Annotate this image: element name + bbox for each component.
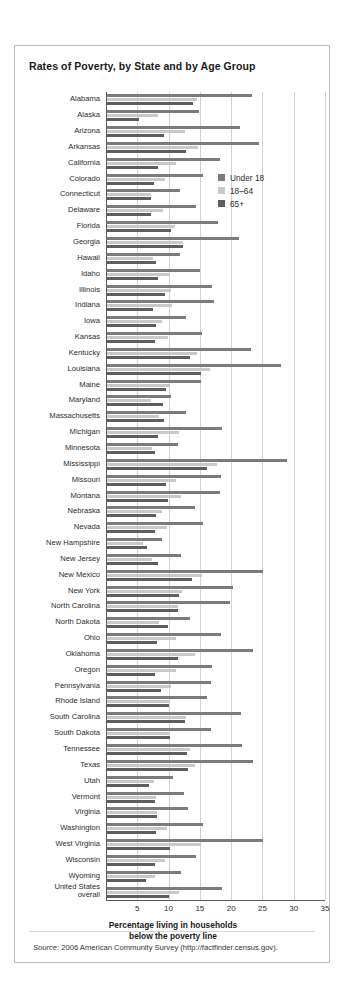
category-label: Nebraska — [14, 507, 100, 515]
bar — [107, 815, 157, 818]
bar-group — [107, 475, 325, 486]
category-label: Wyoming — [14, 872, 100, 880]
legend-label: Under 18 — [230, 173, 264, 183]
bar-group — [107, 665, 325, 676]
bar — [107, 649, 253, 652]
bar — [107, 574, 202, 577]
x-tick-label-25: 25 — [258, 904, 267, 913]
category-label: Hawaii — [14, 254, 100, 262]
bar — [107, 792, 184, 795]
bar — [107, 289, 171, 292]
bar — [107, 704, 169, 707]
bar-group — [107, 839, 325, 850]
bar — [107, 843, 201, 846]
bar — [107, 839, 263, 842]
bar — [107, 182, 154, 185]
legend-item: Under 18 — [218, 171, 318, 184]
bar — [107, 609, 178, 612]
bar — [107, 764, 195, 767]
bar — [107, 744, 242, 747]
category-label: New York — [14, 587, 100, 595]
bar — [107, 879, 146, 882]
bar-group — [107, 570, 325, 581]
category-label: New Hampshire — [14, 539, 100, 547]
bar — [107, 336, 168, 339]
bar — [107, 696, 207, 699]
bar — [107, 447, 152, 450]
category-label: Vermont — [14, 793, 100, 801]
bar — [107, 463, 217, 466]
legend-item: 18–64 — [218, 184, 318, 197]
bar — [107, 261, 156, 264]
bar — [107, 578, 192, 581]
bar-group — [107, 823, 325, 834]
bar — [107, 831, 156, 834]
bar — [107, 269, 200, 272]
bar — [107, 98, 197, 101]
bar-group — [107, 696, 325, 707]
category-label: Mississippi — [14, 460, 100, 468]
bar-group — [107, 522, 325, 533]
bar — [107, 114, 158, 117]
bar — [107, 403, 163, 406]
bar — [107, 146, 198, 149]
bar — [107, 657, 178, 660]
bar-group — [107, 792, 325, 803]
bar — [107, 189, 180, 192]
bar — [107, 162, 176, 165]
bar-group — [107, 760, 325, 771]
bar — [107, 847, 170, 850]
x-axis-title-line-1: Percentage living in households — [15, 920, 331, 931]
bar — [107, 134, 164, 137]
category-label: Montana — [14, 492, 100, 500]
category-label: New Jersey — [14, 555, 100, 563]
bar — [107, 308, 153, 311]
bar — [107, 300, 214, 303]
bar — [107, 689, 161, 692]
bar — [107, 451, 155, 454]
bar-group — [107, 411, 325, 422]
bar-group — [107, 617, 325, 628]
plot-area — [106, 92, 325, 900]
bar — [107, 415, 159, 418]
bar — [107, 807, 188, 810]
category-label: Arizona — [14, 127, 100, 135]
bar — [107, 506, 195, 509]
x-tick-label-20: 20 — [227, 904, 236, 913]
bar-group — [107, 285, 325, 296]
bar — [107, 285, 212, 288]
bar — [107, 768, 188, 771]
bar — [107, 594, 179, 597]
bar — [107, 641, 157, 644]
category-label: Delaware — [14, 206, 100, 214]
bar-group — [107, 649, 325, 660]
bar-group — [107, 538, 325, 549]
bar — [107, 653, 195, 656]
bar-group — [107, 110, 325, 121]
bar — [107, 601, 230, 604]
bar — [107, 554, 181, 557]
category-label: South Dakota — [14, 729, 100, 737]
bar — [107, 895, 169, 898]
bar — [107, 562, 158, 565]
bar-group — [107, 126, 325, 137]
bar-group — [107, 158, 325, 169]
bar — [107, 617, 190, 620]
bar — [107, 875, 155, 878]
bar-group — [107, 395, 325, 406]
bar-group — [107, 94, 325, 105]
category-label: North Carolina — [14, 602, 100, 610]
bar — [107, 748, 190, 751]
category-label: Michigan — [14, 428, 100, 436]
bar-group — [107, 237, 325, 248]
bar — [107, 411, 186, 414]
bar — [107, 380, 201, 383]
bar — [107, 213, 151, 216]
bar — [107, 94, 252, 97]
bar-rows — [107, 92, 325, 900]
source-note: Source: 2006 American Community Survey (… — [33, 943, 278, 952]
category-label: Missouri — [14, 476, 100, 484]
x-tick-label-10: 10 — [164, 904, 173, 913]
bar — [107, 431, 179, 434]
bar — [107, 356, 190, 359]
